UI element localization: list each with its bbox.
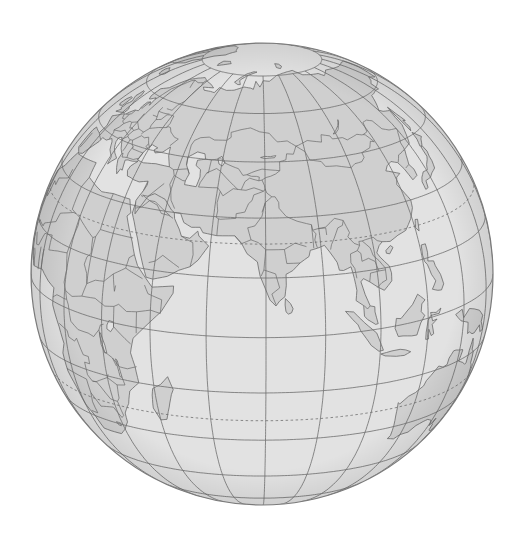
limb-shading [31,43,493,505]
globe-svg [0,0,506,534]
globe-map [0,0,506,534]
